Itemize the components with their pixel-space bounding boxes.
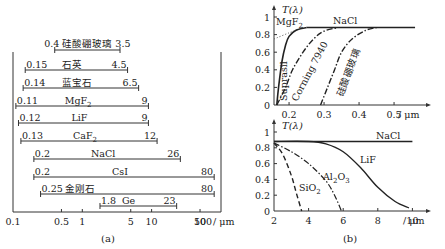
x-tick-label: 5 [128,216,134,227]
panel-b-top: 0.20.30.40.500.20.40.60.81 T(λ) NaCl MgF… [255,4,431,120]
x-axis-arrow-icon [426,103,431,107]
bar-max-label: 23 [164,195,176,206]
bar-min-label: 0.2 [35,166,50,177]
bar-min-label: 1.8 [101,195,116,206]
bar-max-label: 12 [144,130,156,141]
nacl-label: NaCl [376,130,400,141]
range-bar: 0.280CsI [34,166,214,181]
panel-b-bottom: 24681000.20.40.60.81 T(λ) NaCl LiF Al2O3… [255,119,431,244]
bar-name: 石英 [62,59,82,70]
bar-max-label: 9 [141,95,147,106]
x-tick-label: 4 [306,215,312,226]
x-unit-label: / μm [213,216,234,227]
x-tick-label: 0.5 [54,216,69,227]
figure: 0.10.5151050100 0.4 硅酸硼玻璃 3.50.154.5石英0.… [0,0,445,249]
x-unit-label: / μm [403,215,424,226]
bar-label: 0.4 硅酸硼玻璃 3.5 [44,38,130,49]
x-tick-label: 6 [340,215,346,226]
y-tick-label: 0 [264,206,270,217]
y-axis-arrow-icon [272,119,276,124]
al2o3-label: Al2O3 [322,171,350,185]
range-bars: 0.4 硅酸硼玻璃 3.50.154.5石英0.146.5蓝宝石0.119MgF… [16,38,214,210]
bar-max-label: 80 [201,166,213,177]
y-tick-label: 0.2 [255,190,270,201]
range-bar: 0.119MgF2 [16,95,149,110]
y-axis-label: T(λ) [282,120,303,131]
x-unit-label: / μm [398,109,419,120]
x-axis-arrow-icon [426,209,431,213]
x-tick-label: 2 [271,215,277,226]
bar-name: 金刚石 [65,183,95,194]
y-tick-label: 0.8 [255,29,270,40]
x-tick-label: 100 [194,216,212,227]
y-axis-arrow-icon [272,5,276,10]
bar-min-label: 0.12 [19,112,40,123]
bar-max-label: 6.5 [123,77,138,88]
bar-min-label: 0.11 [17,95,38,106]
mgf2-label: MgF2 [276,16,303,30]
bar-max-label: 4.5 [111,59,126,70]
range-bar: 0.226NaCl [34,148,180,163]
x-tick-label: 0.4 [351,109,366,120]
bar-name: Ge [122,195,136,206]
bar-min-label: 0.14 [24,77,45,88]
bar-min-label: 0.15 [26,59,47,70]
y-tick-label: 0.2 [255,82,270,93]
y-tick-label: 1 [264,127,270,138]
x-tick-label: 0.1 [5,216,20,227]
bar-min-label: 0.2 [35,148,50,159]
bar-name: NaCl [91,148,115,159]
panel-a: 0.10.5151050100 0.4 硅酸硼玻璃 3.50.154.5石英0.… [5,38,234,245]
nacl-label: NaCl [333,15,357,26]
caption-a: (a) [101,233,115,244]
range-bar: 1.823Ge [100,195,177,210]
bar-min-label: 0.13 [22,130,43,141]
y-tick-label: 0.4 [255,64,270,75]
x-tick-label: 1 [79,216,85,227]
sio2-label: SiO2 [299,182,321,196]
y-axis-label: T(λ) [282,4,303,15]
bar-max-label: 26 [167,148,179,159]
suprasil-label: Suprasil [278,61,289,101]
range-bar: 0.146.5蓝宝石 [23,77,139,92]
x-tick-label: 8 [375,215,381,226]
bar-name: LiF [71,112,87,123]
bar-max-label: 9 [141,112,147,123]
range-bar: 0.4 硅酸硼玻璃 3.5 [44,38,130,54]
bar-max-label: 80 [201,183,213,194]
sio2-curve [274,143,302,211]
range-bar: 0.1312CaF2 [21,130,157,145]
corning-label: Corning 7940 [289,39,330,103]
y-tick-label: 0 [264,100,270,111]
y-tick-label: 0.4 [255,174,270,185]
bar-name: CsI [112,166,128,177]
lif-label: LiF [360,154,376,165]
caption-b: (b) [343,233,357,244]
bar-name: 蓝宝石 [62,77,92,88]
x-tick-label: 10 [146,216,158,227]
x-tick-label: 0.3 [316,109,331,120]
y-tick-label: 0.8 [255,142,270,153]
range-bar: 0.129LiF [18,112,148,127]
borosilicate-label: 硅酸硼玻璃 [335,47,362,98]
y-tick-label: 1 [264,12,270,23]
y-tick-label: 0.6 [255,47,270,58]
y-tick-label: 0.6 [255,158,270,169]
x-tick-label: 0.2 [281,109,296,120]
range-bar: 0.154.5石英 [25,59,127,74]
bar-min-label: 0.25 [42,183,63,194]
